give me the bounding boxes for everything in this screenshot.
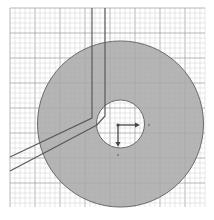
annular-disc-shape[interactable] xyxy=(37,41,203,207)
drawing-viewport[interactable] xyxy=(0,0,214,220)
y-label-dot-icon xyxy=(117,154,119,156)
x-label-dot-icon xyxy=(148,124,150,126)
ucs-origin-icon xyxy=(116,123,119,126)
drawing-canvas[interactable] xyxy=(0,0,214,220)
